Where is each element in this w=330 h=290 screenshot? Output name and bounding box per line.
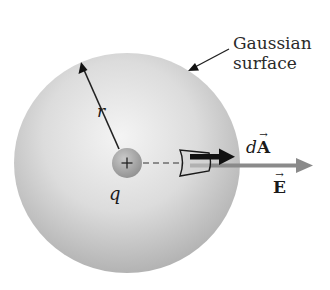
gaussian-surface-diagram: Gaussian surface r q d→A →E: [0, 0, 330, 290]
area-vector-symbol: →A: [257, 139, 270, 156]
vector-arrow-icon: →: [259, 130, 267, 140]
area-element-patch: [180, 150, 211, 176]
point-charge: [112, 148, 142, 178]
radius-label: r: [97, 103, 105, 120]
vector-arrow-icon: →: [275, 170, 283, 180]
caption-line-1: Gaussian: [233, 33, 312, 53]
area-vector-label: d→A: [246, 139, 270, 156]
field-vector-label: →E: [273, 179, 286, 196]
gaussian-surface-caption: Gaussian surface: [233, 33, 312, 73]
area-vector-prefix: d: [246, 137, 257, 157]
charge-label: q: [109, 185, 121, 203]
surface-pointer-arrow: [188, 49, 229, 71]
caption-line-2: surface: [233, 53, 312, 73]
field-vector-symbol: →E: [273, 179, 286, 196]
